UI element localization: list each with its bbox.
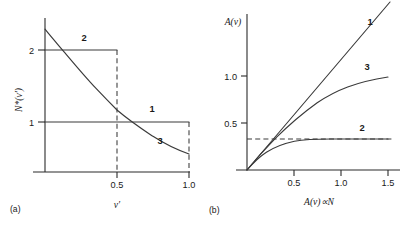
curve-label-3-b: 3: [364, 61, 369, 72]
x-tick-label-05-a: 0.5: [111, 180, 124, 190]
panel-b-plot: 1.0 0.5 0.5 1.0 1.5 A(ν)∝N A(ν) 1 3 2 (b…: [200, 0, 404, 229]
x-tick-label-05-b: 0.5: [288, 178, 301, 188]
panel-label-a: (a): [10, 204, 21, 214]
curve-label-1-a: 1: [149, 103, 154, 114]
y-axis-label-b: A(ν): [224, 16, 242, 28]
x-axis-label-a: ν′: [114, 199, 121, 210]
curve-label-3-a: 3: [157, 135, 162, 146]
curve-label-2-a: 2: [81, 32, 86, 43]
x-axis-label-b: A(ν)∝N: [303, 196, 335, 208]
y-tick-label-1-a: 1: [29, 118, 34, 128]
curve-3-b: [247, 77, 388, 170]
x-tick-label-10-a: 1.0: [183, 180, 196, 190]
y-tick-label-10-b: 1.0: [224, 72, 237, 82]
panel-label-b: (b): [209, 205, 220, 215]
figure-container: 2 1 0.5 1.0 ν′ N*(ν′) 1 2 3 (a): [0, 0, 404, 229]
curve-label-2-b: 2: [359, 122, 364, 133]
panel-b: 1.0 0.5 0.5 1.0 1.5 A(ν)∝N A(ν) 1 3 2 (b…: [200, 0, 404, 229]
curve-label-1-b: 1: [367, 16, 372, 27]
x-tick-label-10-b: 1.0: [335, 178, 348, 188]
y-axis-label-a: N*(ν′): [13, 88, 25, 113]
panel-a: 2 1 0.5 1.0 ν′ N*(ν′) 1 2 3 (a): [0, 0, 200, 229]
panel-a-plot: 2 1 0.5 1.0 ν′ N*(ν′) 1 2 3 (a): [0, 0, 200, 229]
curve-2-b: [247, 139, 388, 170]
x-tick-label-15-b: 1.5: [382, 178, 395, 188]
y-tick-label-05-b: 0.5: [224, 119, 237, 129]
y-tick-label-2-a: 2: [29, 46, 34, 56]
curve-1-b: [247, 2, 390, 170]
